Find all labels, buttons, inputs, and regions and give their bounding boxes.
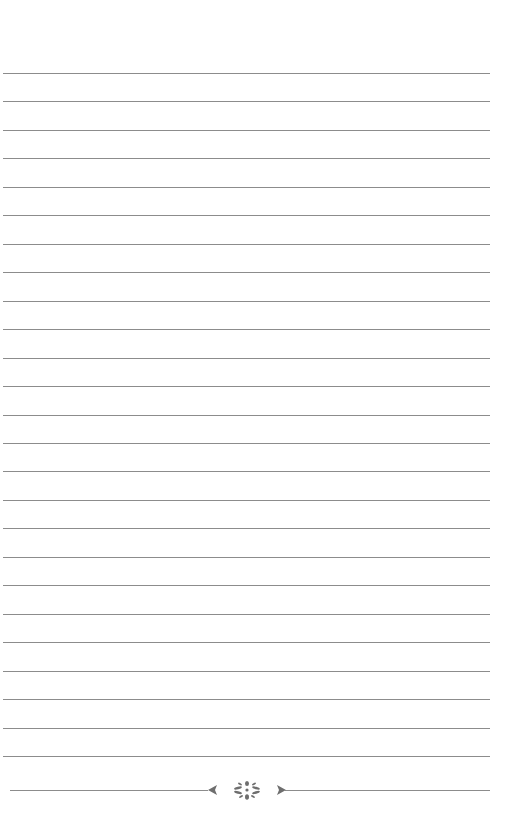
footer-rule-left (10, 790, 208, 791)
ruled-line (3, 358, 490, 359)
ruled-line (3, 500, 490, 501)
footer-rule-right (285, 790, 490, 791)
ruled-line (3, 471, 490, 472)
ruled-line (3, 101, 490, 102)
ruled-line (3, 244, 490, 245)
ruled-line (3, 443, 490, 444)
ruled-line (3, 614, 490, 615)
ruled-line (3, 73, 490, 74)
notepaper-page (0, 0, 515, 839)
ruled-line (3, 158, 490, 159)
ruled-line (3, 301, 490, 302)
ruled-line (3, 528, 490, 529)
ruled-line (3, 585, 490, 586)
ruled-line (3, 415, 490, 416)
ruled-line (3, 215, 490, 216)
ruled-line (3, 728, 490, 729)
ruled-line (3, 699, 490, 700)
ruled-line (3, 386, 490, 387)
ruled-line (3, 329, 490, 330)
ruled-line (3, 756, 490, 757)
floral-divider-icon (207, 780, 287, 802)
ruled-line (3, 130, 490, 131)
ruled-line (3, 671, 490, 672)
ruled-line (3, 642, 490, 643)
ruled-line (3, 187, 490, 188)
ruled-line (3, 272, 490, 273)
ruled-line (3, 557, 490, 558)
